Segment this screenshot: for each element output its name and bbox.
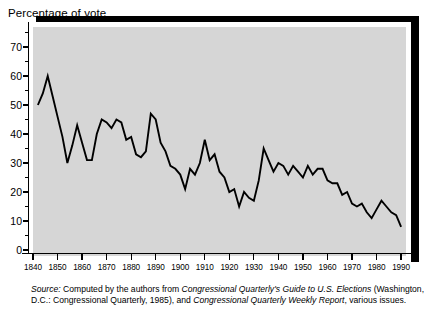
y-tick-label: 50 xyxy=(0,100,22,111)
y-tick-label: 30 xyxy=(0,158,22,169)
y-tick-label: 60 xyxy=(0,71,22,82)
figure: Percentage of vote 010203040506070 18401… xyxy=(0,0,433,328)
data-line-chart xyxy=(28,22,418,272)
y-tick-label: 10 xyxy=(0,216,22,227)
y-tick-label: 70 xyxy=(0,42,22,53)
y-tick-label: 20 xyxy=(0,187,22,198)
y-axis-labels: 010203040506070 xyxy=(0,0,22,328)
y-tick-label: 0 xyxy=(0,245,22,256)
data-series-line xyxy=(38,76,401,227)
source-caption: Source: Computed by the authors from Con… xyxy=(31,284,429,306)
y-tick-label: 40 xyxy=(0,129,22,140)
